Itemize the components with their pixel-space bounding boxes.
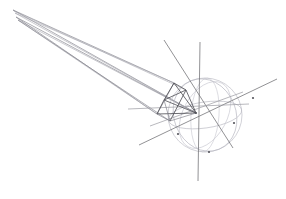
sphere-node-low <box>177 133 179 135</box>
polyhedron-edge-v0-v2 <box>157 113 196 114</box>
cone-beam-group <box>13 10 196 121</box>
sphere-circle-equator-ellipse <box>167 97 244 133</box>
cone-ray-3 <box>18 20 196 113</box>
sphere-node-right <box>252 97 254 99</box>
cone-ray-9 <box>14 11 186 90</box>
sphere-group <box>162 69 247 161</box>
sphere-circle-oblique-ellipse-a <box>162 69 247 161</box>
polyhedron-edge-v3-v4 <box>170 90 186 121</box>
geometry-figure <box>0 0 286 199</box>
polyhedron-edge-v2-v5 <box>157 100 164 114</box>
axis-vertical-axis <box>198 42 200 181</box>
sphere-circle-meridian-ellipse <box>188 77 221 153</box>
hub-node <box>195 112 197 114</box>
axis-diagonal-axis-ne-sw <box>139 79 277 145</box>
axis-diagonal-axis-short <box>150 92 243 126</box>
axes-group <box>128 40 277 181</box>
sphere-node-east <box>233 122 235 124</box>
figure-canvas <box>0 0 286 199</box>
sphere-node-bottom <box>208 151 210 153</box>
